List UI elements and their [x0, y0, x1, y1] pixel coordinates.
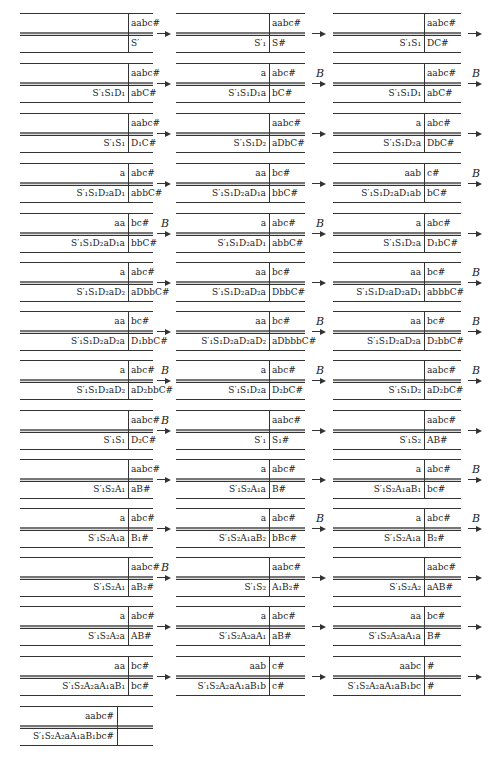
lower-right-text: aD₂bC#	[427, 385, 463, 396]
tape-bottom-line	[20, 152, 153, 153]
arrowhead-icon	[165, 477, 171, 483]
configuration-cell: aabc#S′₁S₂A₁aB₂#	[333, 508, 461, 548]
head-divider	[424, 557, 425, 597]
lower-left-text: S′₁S₂A₂aA₁aB₁bc	[347, 681, 421, 692]
tape-double-line	[333, 232, 461, 236]
upper-right-text: bc#	[272, 168, 290, 179]
tape-double-line	[20, 725, 153, 729]
arrowhead-icon	[320, 329, 326, 335]
transition-arrow-icon	[157, 231, 171, 237]
arrowhead-icon	[320, 31, 326, 37]
lower-left-text: S′₁S₁D₂aD₂aD₁	[356, 287, 421, 298]
upper-left-text: a	[120, 168, 125, 179]
tape-top-line	[333, 410, 461, 411]
lower-left-text: S′₁S₁D₂aD₂aD₂	[201, 336, 266, 347]
transition-arrow-icon	[157, 280, 171, 286]
configuration-cell: aabc#S′₁S₂A₂aA₁aB₁bc#	[20, 656, 153, 696]
head-divider	[269, 459, 270, 499]
backtrack-label: B	[472, 316, 480, 327]
upper-right-text: abc#	[131, 513, 155, 524]
tape-top-line	[176, 410, 305, 411]
tape-bottom-line	[176, 596, 305, 597]
lower-left-text: S′₁S₁D₂aD₁a	[212, 188, 266, 199]
upper-left-text: a	[261, 611, 266, 622]
configuration-cell: aabc#S′₁S₂A₂aA₁aB₁bc#	[20, 706, 153, 746]
upper-left-text: aa	[114, 661, 125, 672]
arrowhead-icon	[165, 378, 171, 384]
backtrack-label: B	[472, 68, 480, 79]
upper-right-text: aabc#	[131, 562, 160, 573]
head-divider	[117, 706, 118, 746]
arrowhead-icon	[320, 575, 326, 581]
lower-left-text: S′₁S₂A₂aA₁aB₁bc#	[33, 731, 114, 742]
lower-left-text: S′₁S₁	[399, 38, 421, 49]
upper-left-text: aa	[255, 168, 266, 179]
transition-arrow-icon	[157, 575, 171, 581]
tape-bottom-line	[20, 449, 153, 450]
lower-right-text: bBc#	[272, 533, 297, 544]
transition-arrow-icon	[157, 526, 171, 532]
lower-left-text: S′₁S₂A₂	[389, 582, 421, 593]
head-divider	[269, 63, 270, 103]
configuration-cell: aabc#S′₁S₂A₁aB#	[20, 459, 153, 499]
tape-double-line	[176, 82, 305, 86]
tape-top-line	[20, 656, 153, 657]
lower-right-text: B₁#	[131, 533, 149, 544]
upper-left-text: a	[261, 365, 266, 376]
tape-double-line	[333, 82, 461, 86]
tape-top-line	[333, 311, 461, 312]
upper-right-text: aabc#	[131, 118, 160, 129]
upper-right-text: bc#	[427, 316, 445, 327]
transition-arrow-icon	[312, 477, 326, 483]
arrowhead-icon	[165, 31, 171, 37]
configuration-cell: aabc#S′₁S₂A₁B₂#	[176, 557, 305, 597]
lower-right-text: aDbbC#	[131, 287, 170, 298]
lower-left-text: S′₁S₂A₂aA₁aB₁b	[197, 681, 266, 692]
lower-left-text: S′₁S₁	[103, 138, 125, 149]
tape-bottom-line	[176, 152, 305, 153]
lower-left-text: S′₁S₂A₁a	[384, 533, 421, 544]
upper-right-text: abc#	[427, 464, 451, 475]
upper-right-text: abc#	[272, 611, 296, 622]
configuration-cell: aabc#S′₁S₁D₂aD₁abbC#	[176, 163, 305, 203]
head-divider	[128, 656, 129, 696]
tape-double-line	[176, 132, 305, 136]
transition-arrow-icon	[468, 231, 482, 237]
lower-left-text: S′₁S₁D₂aD₁	[76, 188, 125, 199]
tape-bottom-line	[20, 695, 153, 696]
tape-bottom-line	[20, 301, 153, 302]
tape-bottom-line	[20, 102, 153, 103]
tape-top-line	[333, 13, 461, 14]
transition-arrow-icon	[468, 280, 482, 286]
head-divider	[269, 410, 270, 450]
tape-top-line	[20, 63, 153, 64]
tape-double-line	[333, 330, 461, 334]
head-divider	[269, 557, 270, 597]
tape-double-line	[176, 330, 305, 334]
tape-top-line	[20, 163, 153, 164]
configuration-cell: aabc#S′₁S₁D₂aD₁bC#	[333, 213, 461, 253]
transition-arrow-icon	[468, 329, 482, 335]
tape-top-line	[333, 508, 461, 509]
lower-right-text: S′	[131, 38, 139, 49]
tape-double-line	[333, 132, 461, 136]
tape-double-line	[20, 132, 153, 136]
tape-top-line	[333, 262, 461, 263]
arrowhead-icon	[165, 624, 171, 630]
backtrack-label: B	[161, 562, 169, 573]
upper-right-text: bc#	[131, 218, 149, 229]
tape-top-line	[20, 706, 153, 707]
tape-bottom-line	[20, 52, 153, 53]
lower-left-text: S′₁S₂A₂aA₁a	[368, 631, 421, 642]
tape-bottom-line	[333, 547, 461, 548]
configuration-cell: aabc#S′₁S₁D₁C#	[20, 113, 153, 153]
head-divider	[128, 459, 129, 499]
transition-arrow-icon	[468, 181, 482, 187]
arrowhead-icon	[476, 131, 482, 137]
lower-right-text: D₂C#	[131, 435, 156, 446]
tape-double-line	[333, 625, 461, 629]
upper-left-text: aa	[410, 267, 421, 278]
arrowhead-icon	[165, 674, 171, 680]
backtrack-label: B	[161, 415, 169, 426]
head-divider	[424, 13, 425, 53]
